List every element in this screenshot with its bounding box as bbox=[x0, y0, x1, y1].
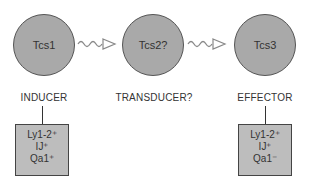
cell-tcs3-label: Tcs3 bbox=[254, 39, 277, 51]
connector-line bbox=[42, 106, 43, 124]
role-effector: EFFECTOR bbox=[230, 92, 300, 103]
cell-tcs2-label: Tcs2? bbox=[139, 39, 168, 51]
wavy-arrow-icon bbox=[187, 37, 229, 51]
cell-tcs1-label: Tcs1 bbox=[33, 39, 56, 51]
marker: IJ⁺ bbox=[239, 141, 291, 153]
marker: Qa1⁻ bbox=[239, 153, 291, 165]
marker: Ly1-2⁺ bbox=[239, 129, 291, 141]
marker: Qa1⁺ bbox=[16, 153, 68, 165]
cell-tcs1: Tcs1 bbox=[13, 14, 75, 76]
role-transducer: TRANSDUCER? bbox=[104, 92, 204, 103]
marker-box-inducer: Ly1-2⁺ IJ⁺ Qa1⁺ bbox=[15, 124, 69, 176]
connector-line bbox=[265, 106, 266, 124]
marker: Ly1-2⁺ bbox=[16, 129, 68, 141]
cell-tcs2: Tcs2? bbox=[122, 14, 184, 76]
wavy-arrow-icon bbox=[77, 37, 119, 51]
marker-box-effector: Ly1-2⁺ IJ⁺ Qa1⁻ bbox=[238, 124, 292, 176]
marker: IJ⁺ bbox=[16, 141, 68, 153]
role-inducer: INDUCER bbox=[10, 92, 78, 103]
cell-tcs3: Tcs3 bbox=[234, 14, 296, 76]
